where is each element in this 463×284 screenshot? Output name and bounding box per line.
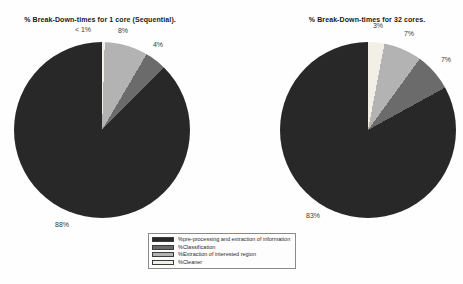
- legend-swatch-extraction: [152, 252, 174, 257]
- legend-swatch-classification: [152, 245, 174, 250]
- legend-swatch-cleaner: [152, 260, 174, 265]
- slice-label-cleaner-1core: < 1%: [75, 26, 91, 33]
- legend-label-classification: %Classification: [178, 244, 215, 251]
- figure-canvas: % Break-Down-times for 1 core (Sequentia…: [0, 0, 463, 284]
- chart-title-1-core: % Break-Down-times for 1 core (Sequentia…: [24, 16, 176, 23]
- legend-swatch-preprocessing: [152, 237, 174, 242]
- slice-label-extraction-1core: 8%: [118, 27, 128, 34]
- pie-1-core: [14, 42, 190, 218]
- legend-item-preprocessing: %pre-processing and extraction of inform…: [152, 236, 293, 243]
- legend-label-preprocessing: %pre-processing and extraction of inform…: [178, 236, 290, 243]
- legend-label-cleaner: %Cleaner: [178, 259, 202, 266]
- pie-32-cores: [280, 42, 456, 218]
- slice-label-classification-1core: 4%: [153, 41, 163, 48]
- slice-label-extraction-32cores: 7%: [404, 30, 414, 37]
- legend-item-classification: %Classification: [152, 244, 293, 251]
- legend-label-extraction: %Extraction of interested region: [178, 251, 256, 258]
- chart-title-32-cores: % Break-Down-times for 32 cores.: [309, 16, 425, 23]
- slice-label-cleaner-32cores: 3%: [373, 22, 383, 29]
- legend-item-cleaner: %Cleaner: [152, 259, 293, 266]
- slice-label-classification-32cores: 7%: [441, 56, 451, 63]
- legend-box: %pre-processing and extraction of inform…: [148, 233, 296, 269]
- legend-item-extraction: %Extraction of interested region: [152, 251, 293, 258]
- slice-label-preprocessing-1core: 88%: [55, 221, 69, 228]
- slice-label-preprocessing-32cores: 83%: [306, 212, 320, 219]
